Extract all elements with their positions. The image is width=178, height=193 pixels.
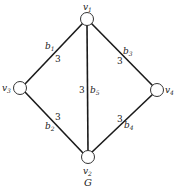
graph-caption: G — [84, 177, 92, 188]
edge-b2 — [25, 92, 83, 153]
edge-label-b1: b1 — [45, 41, 55, 52]
edge-label-b4: b4 — [124, 120, 134, 131]
graph-diagram: v1 v2 v3 v4 b1 3 b2 3 b3 3 b4 3 b5 3 G — [0, 0, 178, 193]
edge-weight-b4: 3 — [117, 114, 123, 124]
node-label-v4: v4 — [165, 85, 174, 96]
node-v3 — [14, 82, 27, 95]
edge-b5 — [87, 25, 88, 151]
edge-weight-b2: 3 — [55, 112, 61, 122]
edge-weight-b1: 3 — [55, 54, 61, 64]
node-v4 — [151, 84, 164, 97]
edge-label-b3: b3 — [123, 46, 133, 57]
node-label-v2: v2 — [83, 166, 92, 177]
edge-label-b5: b5 — [90, 85, 100, 96]
node-v1 — [81, 13, 94, 26]
node-label-v3: v3 — [2, 83, 11, 94]
node-v2 — [82, 151, 95, 164]
edge-weight-b5: 3 — [79, 85, 85, 95]
node-label-v1: v1 — [83, 2, 92, 13]
edge-b3 — [91, 23, 153, 86]
edge-weight-b3: 3 — [117, 56, 123, 66]
edge-b1 — [25, 23, 83, 84]
